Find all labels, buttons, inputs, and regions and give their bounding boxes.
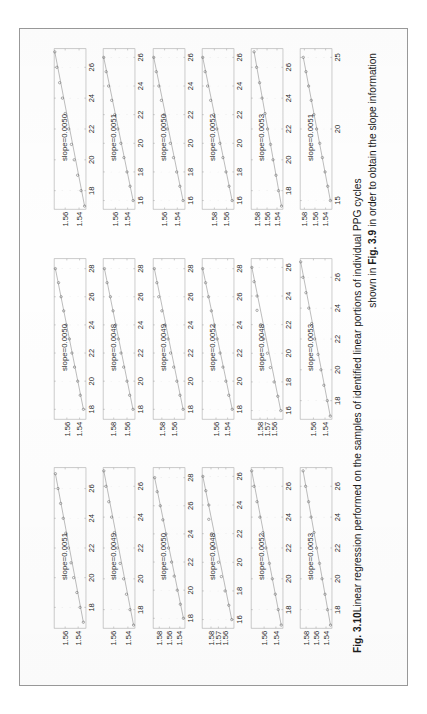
svg-text:24: 24 — [284, 513, 293, 521]
svg-text:20: 20 — [186, 139, 195, 147]
svg-text:1.54: 1.54 — [321, 422, 330, 437]
svg-text:1.56: 1.56 — [263, 212, 272, 227]
svg-text:20: 20 — [136, 139, 145, 147]
caption-line-1: Fig. 3.10Linear regression performed on … — [350, 53, 365, 653]
svg-text:24: 24 — [186, 320, 195, 328]
svg-text:28: 28 — [186, 264, 195, 272]
subplot-c1r1: 18202224261.541.56slope=0.0051 — [50, 464, 97, 659]
subplot-c2r5: 1618202224261.561.571.58slope=0.0048 — [247, 254, 294, 449]
svg-text:20: 20 — [334, 575, 343, 583]
subplot-c2r2: 1820222426281.561.58slope=0.0048 — [99, 254, 146, 449]
svg-text:20: 20 — [186, 586, 195, 594]
slope-annotation: slope=0.0051 — [109, 114, 118, 161]
svg-text:26: 26 — [87, 292, 96, 300]
caption-figure-number: Fig. 3.10 — [352, 612, 363, 653]
slope-annotation: slope=0.0053 — [257, 114, 266, 161]
slope-annotation: slope=0.0051 — [60, 533, 69, 580]
svg-text:18: 18 — [136, 405, 145, 413]
svg-text:22: 22 — [87, 125, 96, 133]
svg-text:1.58: 1.58 — [207, 631, 216, 646]
slope-annotation: slope=0.0048 — [109, 324, 118, 371]
svg-text:1.56: 1.56 — [212, 422, 221, 437]
svg-text:24: 24 — [334, 513, 343, 521]
svg-text:1.56: 1.56 — [311, 212, 320, 227]
svg-text:1.58: 1.58 — [302, 631, 311, 646]
svg-text:24: 24 — [87, 94, 96, 102]
svg-text:20: 20 — [235, 377, 244, 385]
subplot-c3r4: 1618202224261.561.58slope=0.0052 — [198, 45, 245, 240]
svg-text:1.58: 1.58 — [256, 422, 265, 437]
svg-text:1.56: 1.56 — [110, 631, 119, 646]
subplot-c2r3: 1820222426281.561.58slope=0.0049 — [149, 254, 196, 449]
svg-text:26: 26 — [284, 482, 293, 490]
svg-text:1.58: 1.58 — [300, 212, 309, 227]
svg-text:24: 24 — [284, 291, 293, 299]
svg-text:18: 18 — [87, 603, 96, 611]
figure-caption: Fig. 3.10Linear regression performed on … — [350, 53, 380, 653]
svg-text:1.56: 1.56 — [63, 422, 72, 437]
svg-text:26: 26 — [334, 482, 343, 490]
svg-text:1.56: 1.56 — [61, 212, 70, 227]
svg-text:20: 20 — [87, 573, 96, 581]
svg-text:1.54: 1.54 — [75, 212, 84, 227]
svg-text:16: 16 — [235, 197, 244, 205]
svg-text:24: 24 — [136, 82, 145, 90]
svg-text:22: 22 — [235, 111, 244, 119]
svg-text:22: 22 — [136, 348, 145, 356]
slope-annotation: slope=0.0052 — [208, 114, 217, 161]
subplot-c1r3: 1820222426281.541.561.58slope=0.0050 — [149, 464, 196, 659]
svg-text:26: 26 — [284, 63, 293, 71]
caption-line-2-post: in order to obtain the slope information — [367, 53, 378, 230]
svg-text:18: 18 — [284, 187, 293, 195]
svg-text:1.56: 1.56 — [111, 212, 120, 227]
svg-text:28: 28 — [136, 264, 145, 272]
svg-text:1.56: 1.56 — [123, 422, 132, 437]
svg-text:24: 24 — [334, 304, 343, 312]
svg-text:22: 22 — [186, 558, 195, 566]
slope-annotation: slope=0.0051 — [306, 114, 315, 161]
svg-text:18: 18 — [235, 587, 244, 595]
svg-text:1.54: 1.54 — [175, 631, 184, 646]
svg-text:1.54: 1.54 — [173, 212, 182, 227]
svg-text:1.54: 1.54 — [272, 631, 281, 646]
svg-text:16: 16 — [136, 197, 145, 205]
svg-text:22: 22 — [284, 544, 293, 552]
svg-text:22: 22 — [235, 348, 244, 356]
subplot-c2r6: 18202224261.541.56slope=0.0053 — [296, 254, 343, 449]
svg-text:24: 24 — [136, 513, 145, 521]
subplot-c3r2: 1618202224261.541.56slope=0.0051 — [99, 45, 146, 240]
svg-text:24: 24 — [136, 320, 145, 328]
svg-text:18: 18 — [136, 605, 145, 613]
svg-text:1.58: 1.58 — [210, 212, 219, 227]
svg-text:20: 20 — [87, 156, 96, 164]
svg-text:26: 26 — [186, 53, 195, 61]
svg-text:26: 26 — [136, 53, 145, 61]
svg-text:26: 26 — [186, 502, 195, 510]
subplot-c1r4: 1618202224261.561.571.58slope=0.0048 — [198, 464, 245, 659]
svg-text:20: 20 — [235, 139, 244, 147]
svg-text:15: 15 — [334, 197, 343, 205]
slope-annotation: slope=0.0052 — [257, 533, 266, 580]
svg-text:24: 24 — [235, 320, 244, 328]
slope-annotation: slope=0.0050 — [158, 532, 167, 580]
svg-text:26: 26 — [186, 292, 195, 300]
svg-text:16: 16 — [186, 197, 195, 205]
svg-text:1.58: 1.58 — [155, 631, 164, 646]
svg-text:18: 18 — [235, 168, 244, 176]
svg-text:18: 18 — [87, 405, 96, 413]
subplot-c1r6: 18202224261.541.561.58slope=0.0053 — [296, 464, 343, 659]
svg-text:1.56: 1.56 — [260, 631, 269, 646]
svg-text:26: 26 — [334, 273, 343, 281]
svg-text:1.56: 1.56 — [61, 631, 70, 646]
svg-text:20: 20 — [87, 377, 96, 385]
book-page: 18202224261.541.56slope=0.00511820222426… — [0, 0, 427, 714]
svg-text:24: 24 — [235, 501, 244, 509]
svg-text:18: 18 — [186, 614, 195, 622]
svg-text:1.58: 1.58 — [157, 422, 166, 437]
svg-text:22: 22 — [186, 348, 195, 356]
slope-annotation: slope=0.0048 — [208, 533, 217, 580]
subplot-grid: 18202224261.541.56slope=0.00511820222426… — [50, 45, 340, 659]
svg-text:18: 18 — [284, 377, 293, 385]
svg-text:18: 18 — [186, 168, 195, 176]
svg-text:18: 18 — [87, 187, 96, 195]
